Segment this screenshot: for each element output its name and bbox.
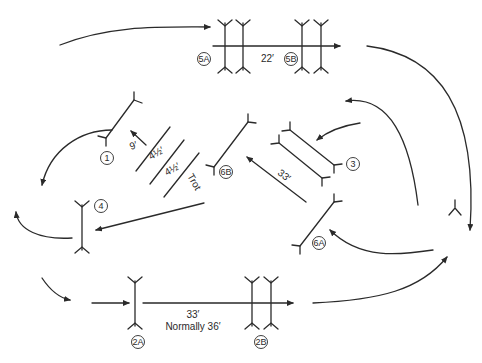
fence-6b-label: 6B — [220, 167, 231, 177]
course-diagram: 5A 5B 22′ 1 9′ 4½′ 4½′ Trot 6B 3 33′ — [0, 0, 482, 363]
distance-pole-2: 4½′ — [163, 160, 182, 177]
arrow-to-6a — [330, 230, 433, 254]
trot-poles — [136, 127, 199, 197]
arrow-6a-6b — [247, 157, 306, 202]
fence-3-label: 3 — [350, 159, 355, 169]
fence-6a-label: 6A — [313, 238, 324, 248]
fence-1 — [98, 92, 142, 146]
cone-marker — [449, 200, 461, 215]
track-bottom-right — [313, 257, 447, 303]
arrow-to-4 — [96, 203, 204, 230]
distance-2a-2b: 33′ — [187, 309, 200, 320]
trot-label: Trot — [185, 172, 203, 193]
fence-6b — [206, 114, 256, 175]
fence-5b-label: 5B — [285, 54, 296, 64]
distance-pole-1: 4½′ — [147, 144, 166, 161]
track-left-exit-4 — [16, 212, 72, 238]
fence-1-label: 1 — [104, 153, 109, 163]
arrow-to-3 — [317, 123, 360, 140]
fence-4 — [75, 201, 89, 253]
track-bottom-left — [42, 278, 70, 300]
fence-2a-label: 2A — [132, 337, 143, 347]
fence-4-label: 4 — [98, 201, 103, 211]
distance-ground-1: 9′ — [128, 139, 139, 152]
distance-5a-5b: 22′ — [261, 53, 274, 64]
fence-2b-label: 2B — [255, 337, 266, 347]
fence-5a-label: 5A — [198, 54, 209, 64]
fence-2a — [128, 277, 142, 329]
track-right-inner — [346, 100, 418, 205]
distance-2a-2b-note: Normally 36′ — [165, 321, 220, 332]
